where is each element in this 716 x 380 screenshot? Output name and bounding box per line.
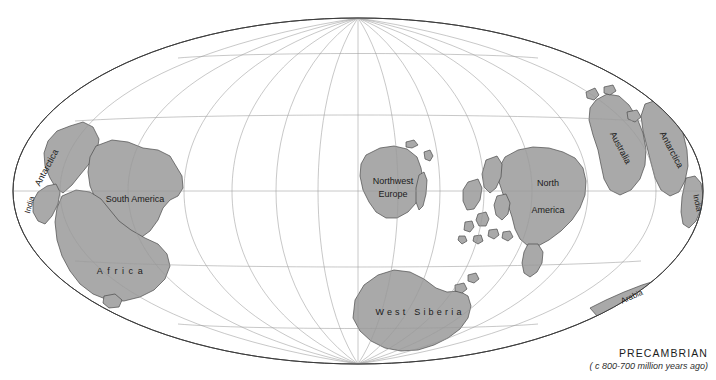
label-africa: Africa bbox=[97, 266, 148, 276]
caption-title: PRECAMBRIAN bbox=[589, 347, 708, 360]
label-west-siberia: West Siberia bbox=[375, 307, 464, 317]
label-north-america-1: North bbox=[537, 178, 559, 188]
label-northwest-europe-2: Europe bbox=[378, 189, 407, 199]
caption-subtitle: ( c 800-700 million years ago) bbox=[589, 361, 708, 372]
map-caption: PRECAMBRIAN ( c 800-700 million years ag… bbox=[589, 347, 708, 372]
label-northwest-europe-1: Northwest bbox=[373, 176, 414, 186]
label-north-america-2: America bbox=[531, 205, 564, 215]
label-south-america: South America bbox=[106, 194, 165, 204]
map-svg: Antarctica India South America Africa No… bbox=[0, 0, 716, 380]
paleogeographic-map: Antarctica India South America Africa No… bbox=[0, 0, 716, 380]
